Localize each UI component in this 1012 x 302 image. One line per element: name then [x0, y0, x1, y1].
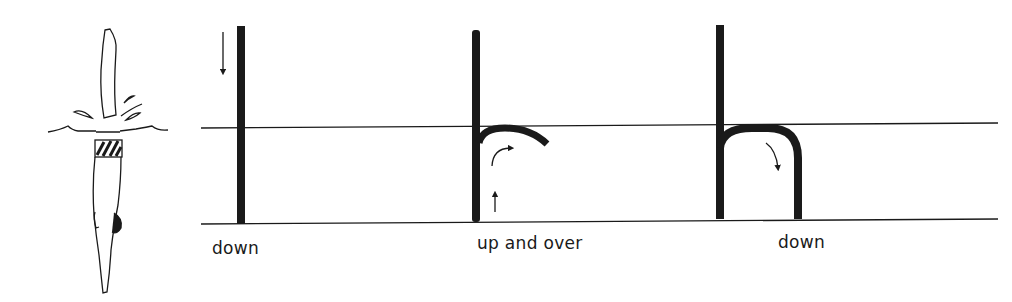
base-line: [201, 219, 998, 224]
guide-lines: [201, 123, 998, 224]
step-3-stroke: [716, 25, 798, 219]
step-1-stroke: [223, 26, 245, 224]
letter-h-diagram: [0, 0, 1012, 302]
step-2-label: up and over: [477, 233, 583, 253]
step-3-label: down: [778, 232, 825, 252]
curve-right-arrow-icon: [492, 148, 511, 166]
diver-illustration: [48, 29, 168, 293]
curve-down-arrow-icon: [766, 143, 778, 168]
waist-line: [201, 123, 998, 128]
step-1-label: down: [212, 238, 259, 258]
